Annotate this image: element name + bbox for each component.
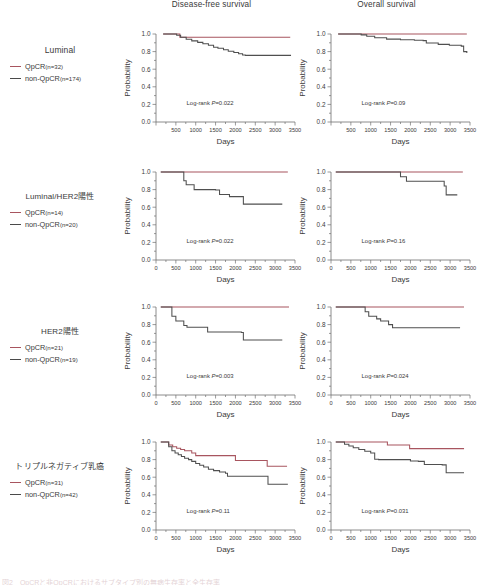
x-tick-label: 3000 (269, 127, 281, 133)
x-tick-label: 2000 (404, 265, 416, 271)
legend-series-count: (n=42) (60, 491, 78, 498)
y-tick-label: 0.0 (317, 118, 326, 125)
y-axis-title: Probability (123, 467, 132, 504)
row-legend: LuminalQpCR(n=32)non-QpCR (n=174) (0, 45, 120, 86)
x-tick-label: 1000 (364, 127, 376, 133)
x-tick-label: 2500 (249, 400, 261, 406)
legend-line-swatch (10, 78, 21, 79)
x-tick-label: 2000 (229, 265, 241, 271)
axis-lines (331, 172, 470, 260)
km-curve-non-qpcr (336, 307, 460, 328)
logrank-annotation: Log-rank P=0.022 (187, 100, 234, 106)
x-tick-label: 2500 (424, 535, 436, 541)
y-tick-label: 1.0 (317, 168, 326, 175)
y-tick-label: 0.4 (317, 221, 326, 228)
y-tick-label: 0.0 (317, 391, 326, 398)
x-tick-label: 0 (329, 535, 332, 541)
y-tick-label: 0.0 (317, 526, 326, 533)
y-tick-label: 0.4 (317, 356, 326, 363)
logrank-annotation: Log-rank P=0.09 (362, 100, 406, 106)
row-legend-title: トリプルネガティブ乳癌 (0, 460, 120, 471)
x-tick-label: 2000 (404, 400, 416, 406)
y-axis-title: Probability (298, 197, 307, 234)
y-tick-label: 0.8 (142, 456, 151, 463)
x-tick-label: 0 (154, 535, 157, 541)
logrank-annotation: Log-rank P=0.003 (187, 373, 235, 379)
legend-series-label: non-QpCR (25, 355, 60, 364)
x-tick-label: 0 (154, 265, 157, 271)
subtype-row: トリプルネガティブ乳癌QpCR(n=31)non-QpCR (n=42)0.00… (0, 420, 478, 570)
axis-lines (156, 307, 295, 395)
legend-series-label: QpCR (25, 478, 45, 487)
x-tick-label: 500 (346, 127, 355, 133)
km-curve-non-qpcr (161, 307, 283, 340)
x-tick-label: 500 (346, 535, 355, 541)
y-tick-label: 0.4 (142, 356, 151, 363)
x-tick-label: 3000 (444, 535, 456, 541)
legend-series-label: non-QpCR (25, 74, 60, 83)
survival-plot: 0.00.20.40.60.81.00500100015002000250030… (120, 285, 303, 435)
x-tick-label: 3000 (444, 127, 456, 133)
subtype-row: LuminalQpCR(n=32)non-QpCR (n=174)Disease… (0, 0, 478, 150)
legend-line-swatch (10, 224, 21, 225)
x-tick-label: 1500 (209, 400, 221, 406)
panel-disease-free-survival: 0.00.20.40.60.81.00500100015002000250030… (120, 150, 303, 285)
km-curve-non-qpcr (161, 172, 283, 204)
y-tick-label: 0.8 (142, 48, 151, 55)
legend-entry: non-QpCR (n=174) (0, 74, 120, 83)
x-tick-label: 0 (154, 400, 157, 406)
y-tick-label: 1.0 (317, 303, 326, 310)
x-tick-label: 500 (346, 265, 355, 271)
figure-caption-strip: 図2 QpCRと非QpCRにおけるサブタイプ別の無病生存率と全生存率 (0, 577, 478, 585)
y-tick-label: 1.0 (317, 438, 326, 445)
y-tick-label: 0.4 (142, 491, 151, 498)
panel-disease-free-survival: Disease-free survival0.00.20.40.60.81.05… (120, 0, 303, 150)
panel-overall-survival: 0.00.20.40.60.81.00500100015002000250030… (295, 420, 478, 570)
x-tick-label: 2000 (404, 535, 416, 541)
legend-entry: QpCR(n=14) (0, 208, 120, 217)
y-tick-label: 1.0 (142, 168, 151, 175)
y-axis-title: Probability (123, 332, 132, 369)
x-tick-label: 3500 (464, 535, 476, 541)
km-curve-non-qpcr (336, 172, 458, 195)
y-tick-label: 0.4 (317, 83, 326, 90)
x-tick-label: 1000 (364, 400, 376, 406)
legend-series-count: (n=14) (45, 209, 63, 216)
legend-series-count: (n=174) (60, 75, 81, 82)
survival-plot: 0.00.20.40.60.81.00500100015002000250030… (120, 150, 303, 300)
x-tick-label: 2000 (229, 127, 241, 133)
x-axis-title: Days (216, 275, 234, 284)
y-tick-label: 0.6 (317, 66, 326, 73)
y-tick-label: 0.6 (317, 204, 326, 211)
y-tick-label: 1.0 (142, 30, 151, 37)
legend-line-swatch (10, 359, 21, 360)
x-tick-label: 3500 (464, 127, 476, 133)
y-tick-label: 0.8 (317, 456, 326, 463)
y-tick-label: 0.6 (142, 339, 151, 346)
legend-series-label: non-QpCR (25, 220, 60, 229)
x-tick-label: 1500 (384, 400, 396, 406)
y-tick-label: 0.0 (142, 391, 151, 398)
legend-line-swatch (10, 212, 21, 213)
row-legend-title: Luminal (0, 45, 120, 55)
figure-caption: 図2 QpCRと非QpCRにおけるサブタイプ別の無病生存率と全生存率 (0, 577, 478, 585)
y-tick-label: 1.0 (317, 30, 326, 37)
panel-overall-survival: 0.00.20.40.60.81.00500100015002000250030… (295, 285, 478, 420)
legend-line-swatch (10, 347, 21, 348)
y-tick-label: 0.4 (142, 221, 151, 228)
subtype-row: HER2陽性QpCR(n=21)non-QpCR (n=19)0.00.20.4… (0, 285, 478, 420)
km-curve-non-qpcr (338, 34, 467, 53)
y-tick-label: 0.0 (142, 118, 151, 125)
x-tick-label: 3500 (464, 400, 476, 406)
x-tick-label: 500 (171, 127, 180, 133)
y-tick-label: 0.4 (142, 83, 151, 90)
y-tick-label: 0.8 (142, 321, 151, 328)
x-tick-label: 1000 (189, 535, 201, 541)
x-tick-label: 3000 (269, 535, 281, 541)
legend-entry: QpCR(n=31) (0, 478, 120, 487)
legend-series-count: (n=19) (60, 356, 78, 363)
y-tick-label: 0.8 (317, 48, 326, 55)
x-tick-label: 1000 (189, 265, 201, 271)
x-tick-label: 1000 (189, 400, 201, 406)
axis-lines (156, 172, 295, 260)
